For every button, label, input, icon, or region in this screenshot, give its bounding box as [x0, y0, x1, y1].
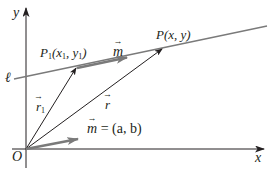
vector-r1	[26, 68, 76, 149]
vector-m-on-line-label: m	[113, 45, 123, 59]
y-axis-label: y	[13, 6, 19, 20]
vector-r1-label: r1	[36, 100, 45, 115]
diagram-canvas	[0, 0, 276, 171]
point-p1-label: P1(x1, y1)	[40, 46, 87, 61]
origin-label: O	[12, 150, 22, 164]
vector-m-equation-label: m = (a, b)	[87, 122, 142, 136]
line-l-label: ℓ	[5, 71, 11, 85]
point-p-label: P(x, y)	[156, 28, 191, 41]
vector-m-origin	[26, 139, 78, 149]
vector-r-label: r	[105, 98, 110, 111]
x-axis-label: x	[255, 151, 261, 165]
vector-line-diagram: y x O ℓ P1(x1, y1) P(x, y) m r1 r m = (a…	[0, 0, 276, 171]
